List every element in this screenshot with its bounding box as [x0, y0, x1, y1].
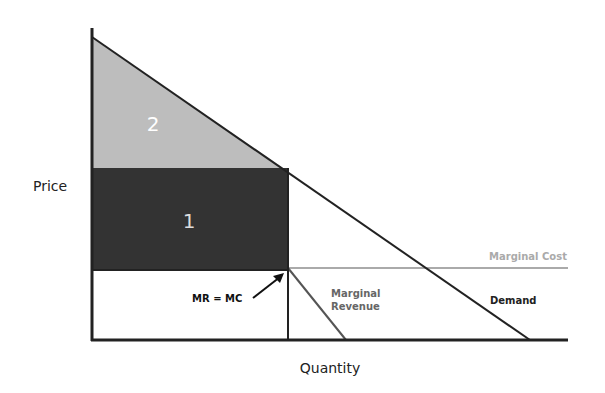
- marginal-revenue-label-1: Marginal: [331, 288, 381, 299]
- chart-canvas: 2 1 Price Quantity MR = MC Marginal Cost…: [0, 0, 605, 393]
- marginal-cost-label: Marginal Cost: [489, 251, 567, 262]
- area-1-label: 1: [183, 209, 196, 233]
- mr-mc-label: MR = MC: [192, 293, 242, 304]
- x-axis-label: Quantity: [300, 360, 361, 376]
- demand-label: Demand: [490, 295, 537, 306]
- y-axis-label: Price: [33, 178, 67, 194]
- cost-box: [92, 270, 288, 340]
- marginal-revenue-label-2: Revenue: [331, 301, 380, 312]
- area-2-label: 2: [147, 112, 160, 136]
